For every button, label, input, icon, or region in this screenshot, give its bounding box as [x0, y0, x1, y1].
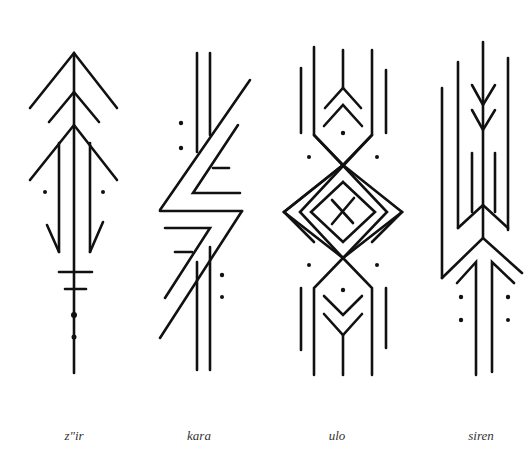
rune-glyphs-canvas [0, 0, 524, 400]
glyph-kara [160, 53, 250, 370]
label-zhir: z"ir [64, 428, 83, 444]
glyph-siren [442, 42, 522, 375]
label-siren: siren [468, 428, 494, 444]
glyph-ulo [284, 47, 402, 375]
label-ulo: ulo [329, 428, 346, 444]
label-kara: kara [187, 428, 211, 444]
glyph-zhir [30, 53, 117, 373]
